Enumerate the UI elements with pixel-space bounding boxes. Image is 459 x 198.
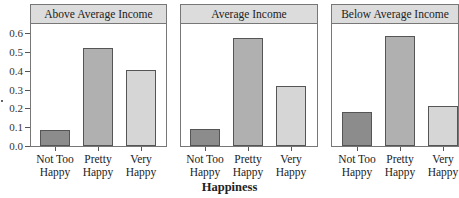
x-tick xyxy=(55,147,56,151)
x-axis-title: Happiness xyxy=(0,180,459,195)
x-label-line: Happy xyxy=(83,166,114,178)
y-tick-label: 0.0 xyxy=(9,140,23,152)
x-label-very-happy: VeryHappy xyxy=(420,153,459,179)
y-tick: 0.6 xyxy=(0,33,30,45)
plot-area xyxy=(31,24,166,146)
y-tick-label: 0.4 xyxy=(9,65,23,77)
y-tick: 0.2 xyxy=(0,108,30,120)
x-label-line: Very xyxy=(130,153,152,165)
y-tick-label: 0.1 xyxy=(9,121,23,133)
panel-above-average-income: Above Average Income xyxy=(30,4,167,147)
y-tick: 0.4 xyxy=(0,71,30,83)
plot-area xyxy=(332,24,458,146)
x-label-not-too-happy: Not TooHappy xyxy=(334,153,380,179)
y-tick-label: 0.2 xyxy=(9,102,23,114)
x-label-very-happy: VeryHappy xyxy=(268,153,314,179)
bar-very-happy xyxy=(428,106,458,146)
x-tick xyxy=(357,147,358,151)
x-label-pretty-happy: PrettyHappy xyxy=(377,153,423,179)
x-label-line: Happy xyxy=(40,166,71,178)
y-tick-label: 0.5 xyxy=(9,46,23,58)
x-label-not-too-happy: Not TooHappy xyxy=(182,153,228,179)
x-label-line: Happy xyxy=(342,166,373,178)
bar-pretty-happy xyxy=(233,38,263,146)
x-tick xyxy=(291,147,292,151)
y-axis: 0.0 0.1 0.2 0.3 0.4 0.5 0.6 xyxy=(0,0,30,160)
y-tick-label: 0.3 xyxy=(9,84,23,96)
bar-not-too-happy xyxy=(190,129,220,146)
x-label-line: Very xyxy=(280,153,302,165)
x-tick xyxy=(205,147,206,151)
x-label-line: Pretty xyxy=(386,153,413,165)
x-label-not-too-happy: Not TooHappy xyxy=(32,153,78,179)
x-label-line: Not Too xyxy=(338,153,376,165)
y-tick: 0.3 xyxy=(0,90,30,102)
x-label-line: Happy xyxy=(276,166,307,178)
x-tick xyxy=(443,147,444,151)
panel-below-average-income: Below Average Income xyxy=(331,4,459,147)
x-label-line: Very xyxy=(432,153,454,165)
x-label-line: Pretty xyxy=(84,153,111,165)
x-label-line: Pretty xyxy=(234,153,261,165)
x-label-line: Happy xyxy=(190,166,221,178)
x-label-line: Happy xyxy=(126,166,157,178)
y-tick: 0.1 xyxy=(0,127,30,139)
x-label-line: Not Too xyxy=(36,153,74,165)
bar-not-too-happy xyxy=(40,130,70,146)
x-label-very-happy: VeryHappy xyxy=(118,153,164,179)
x-label-line: Happy xyxy=(233,166,264,178)
x-label-pretty-happy: PrettyHappy xyxy=(75,153,121,179)
x-label-line: Not Too xyxy=(186,153,224,165)
x-tick xyxy=(98,147,99,151)
x-tick xyxy=(141,147,142,151)
bar-very-happy xyxy=(276,86,306,146)
bar-pretty-happy xyxy=(83,48,113,146)
y-tick-label: 0.6 xyxy=(9,27,23,39)
x-label-pretty-happy: PrettyHappy xyxy=(225,153,271,179)
x-label-line: Happy xyxy=(428,166,459,178)
y-tick: 0.0 xyxy=(0,146,30,158)
bar-pretty-happy xyxy=(385,36,415,146)
panel-title: Average Income xyxy=(181,5,317,24)
panel-title: Below Average Income xyxy=(332,5,458,24)
panel-average-income: Average Income xyxy=(180,4,318,147)
panel-title: Above Average Income xyxy=(31,5,166,24)
bar-very-happy xyxy=(126,70,156,146)
plot-area xyxy=(181,24,317,146)
x-tick xyxy=(400,147,401,151)
y-tick: 0.5 xyxy=(0,52,30,64)
x-label-line: Happy xyxy=(385,166,416,178)
x-tick xyxy=(248,147,249,151)
bar-not-too-happy xyxy=(342,112,372,146)
